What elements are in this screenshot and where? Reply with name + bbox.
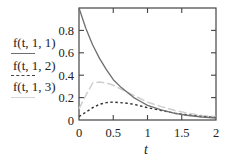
plot-frame bbox=[79, 8, 216, 120]
x-tick-label: 1.5 bbox=[174, 126, 190, 140]
legend-swatch-dashed bbox=[11, 97, 35, 98]
y-tick-label: 0.8 bbox=[58, 24, 74, 38]
y-tick-label: 0.6 bbox=[58, 46, 74, 60]
legend-label-f-t-1-2: f(t, 1, 2) bbox=[13, 59, 56, 73]
x-tick-label: 1 bbox=[144, 126, 150, 140]
y-tick-label: 0.2 bbox=[58, 91, 74, 105]
data-series bbox=[79, 8, 216, 118]
legend-label-f-t-1-3: f(t, 1, 3) bbox=[13, 80, 56, 94]
legend-swatch-solid bbox=[11, 53, 35, 54]
y-tick-label: 0.4 bbox=[58, 69, 74, 83]
x-tick-label: 0 bbox=[76, 126, 82, 140]
x-tick-labels: 00.511.52 bbox=[76, 126, 219, 140]
y-tick-label: 0 bbox=[68, 114, 74, 128]
axis-ticks bbox=[79, 8, 216, 120]
series-line-dashed bbox=[79, 82, 216, 117]
y-tick-labels: 00.20.40.60.8 bbox=[58, 24, 74, 128]
legend-swatch-dotted bbox=[11, 75, 35, 76]
x-tick-label: 0.5 bbox=[105, 126, 121, 140]
x-tick-label: 2 bbox=[213, 126, 219, 140]
legend-label-f-t-1-1: f(t, 1, 1) bbox=[13, 36, 56, 50]
x-axis-title: t bbox=[144, 142, 149, 157]
